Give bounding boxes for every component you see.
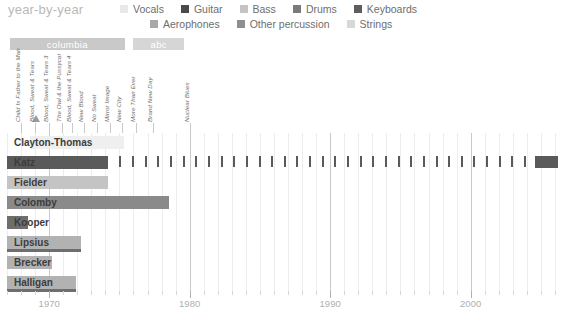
album-stem — [136, 123, 137, 133]
axis-tick-minor — [372, 291, 373, 295]
legend-swatch-icon — [120, 5, 128, 13]
axis-tick-minor — [443, 291, 444, 295]
reunion-marker — [334, 156, 336, 167]
reunion-marker — [410, 156, 412, 167]
legend-row-1: VocalsGuitarBassDrumsKeyboards — [120, 1, 565, 16]
album-marker[interactable]: Child Is Father to the Man — [17, 55, 27, 133]
album-stem — [21, 123, 22, 133]
album-title: Nuclear Blues — [183, 82, 190, 122]
chart-row[interactable]: Katz — [0, 153, 569, 173]
chart-row[interactable]: Halligan — [0, 273, 569, 293]
member-name-label: Clayton-Thomas — [14, 136, 92, 149]
chart-row[interactable]: Clayton-Thomas — [0, 133, 569, 153]
member-name-label: Fielder — [14, 176, 47, 189]
reunion-marker — [347, 156, 349, 167]
axis-tick-minor — [499, 291, 500, 295]
album-markers: Child Is Father to the ManBlood, Sweat &… — [0, 55, 569, 133]
axis-tick-minor — [133, 291, 134, 295]
axis-tick-minor — [513, 291, 514, 295]
member-name-label: Halligan — [14, 276, 53, 289]
axis-tick-minor — [119, 291, 120, 295]
reunion-marker — [296, 156, 298, 167]
album-stem — [190, 123, 191, 133]
label-bar-columbia[interactable]: columbia — [10, 38, 125, 50]
album-marker[interactable]: Blood, Sweat & Tears 3 — [45, 55, 55, 133]
reunion-marker — [119, 156, 121, 167]
album-marker[interactable]: Nuclear Blues — [186, 55, 196, 133]
chart-row[interactable]: Colomby — [0, 193, 569, 213]
album-stem — [62, 123, 63, 133]
chart-row[interactable]: Fielder — [0, 173, 569, 193]
legend-swatch-icon — [354, 5, 362, 13]
reunion-marker — [448, 156, 450, 167]
legend-swatch-icon — [181, 5, 189, 13]
member-name-label: Katz — [14, 156, 35, 169]
legend-label: Drums — [306, 3, 337, 15]
reunion-marker — [132, 156, 134, 167]
legend-item-strings[interactable]: Strings — [347, 18, 393, 30]
reunion-marker — [398, 156, 400, 167]
axis-tick-minor — [35, 291, 36, 295]
axis-tick-minor — [429, 291, 430, 295]
album-title: Child Is Father to the Man — [14, 48, 21, 122]
reunion-marker — [423, 156, 425, 167]
legend-item-drums[interactable]: Drums — [293, 3, 337, 15]
legend-item-keyboards[interactable]: Keyboards — [354, 3, 417, 15]
album-marker[interactable]: More Than Ever — [132, 55, 142, 133]
axis-tick-minor — [232, 291, 233, 295]
album-stem — [84, 123, 85, 133]
axis-tick-minor — [527, 291, 528, 295]
legend-swatch-icon — [240, 5, 248, 13]
legend: VocalsGuitarBassDrumsKeyboards Aerophone… — [120, 1, 565, 31]
legend-item-guitar[interactable]: Guitar — [181, 3, 223, 15]
axis-tick-minor — [274, 291, 275, 295]
axis-tick-minor — [386, 291, 387, 295]
axis-tick-minor — [344, 291, 345, 295]
legend-item-other-percussion[interactable]: Other percussion — [237, 18, 330, 30]
axis-tick-minor — [457, 291, 458, 295]
axis-tick-minor — [260, 291, 261, 295]
chart-row[interactable]: Brecker — [0, 253, 569, 273]
legend-swatch-icon — [347, 20, 355, 28]
chart-row[interactable]: Kooper — [0, 213, 569, 233]
member-name-label: Kooper — [14, 216, 49, 229]
axis-tick-minor — [400, 291, 401, 295]
legend-label: Guitar — [194, 3, 223, 15]
album-stem — [122, 123, 123, 133]
album-marker[interactable]: New City — [118, 55, 128, 133]
album-title: Blood, Sweat & Tears 3 — [42, 55, 49, 122]
album-stem — [35, 123, 36, 133]
legend-label: Bass — [253, 3, 276, 15]
album-marker[interactable]: Blood, Sweat & Tears — [31, 55, 41, 133]
axis-tick-label: 1970 — [39, 298, 60, 309]
album-marker[interactable]: Brand New Day — [149, 55, 159, 133]
reunion-marker — [145, 156, 147, 167]
axis-tick-minor — [77, 291, 78, 295]
axis-tick-minor — [7, 291, 8, 295]
legend-item-aerophones[interactable]: Aerophones — [150, 18, 220, 30]
label-bar-abc[interactable]: abc — [133, 38, 184, 50]
axis-tick-major — [190, 291, 191, 298]
reunion-marker — [246, 156, 248, 167]
chart-row[interactable]: Lipsius — [0, 233, 569, 253]
album-title: Blood, Sweat & Tears 4 — [65, 55, 72, 122]
reunion-marker — [271, 156, 273, 167]
axis-tick-major — [330, 291, 331, 298]
reunion-marker — [221, 156, 223, 167]
axis-tick-minor — [358, 291, 359, 295]
legend-label: Other percussion — [250, 18, 330, 30]
legend-item-bass[interactable]: Bass — [240, 3, 276, 15]
legend-swatch-icon — [150, 20, 158, 28]
legend-item-vocals[interactable]: Vocals — [120, 3, 164, 15]
axis-tick-minor — [176, 291, 177, 295]
reunion-marker — [499, 156, 501, 167]
axis-tick-minor — [162, 291, 163, 295]
album-stem — [49, 123, 50, 133]
reunion-marker — [284, 156, 286, 167]
reunion-marker — [208, 156, 210, 167]
legend-swatch-icon — [237, 20, 245, 28]
member-bar-secondary[interactable] — [7, 249, 81, 252]
album-marker[interactable]: No Sweat — [93, 55, 103, 133]
member-name-label: Lipsius — [14, 236, 49, 249]
album-marker[interactable]: New Blood — [80, 55, 90, 133]
